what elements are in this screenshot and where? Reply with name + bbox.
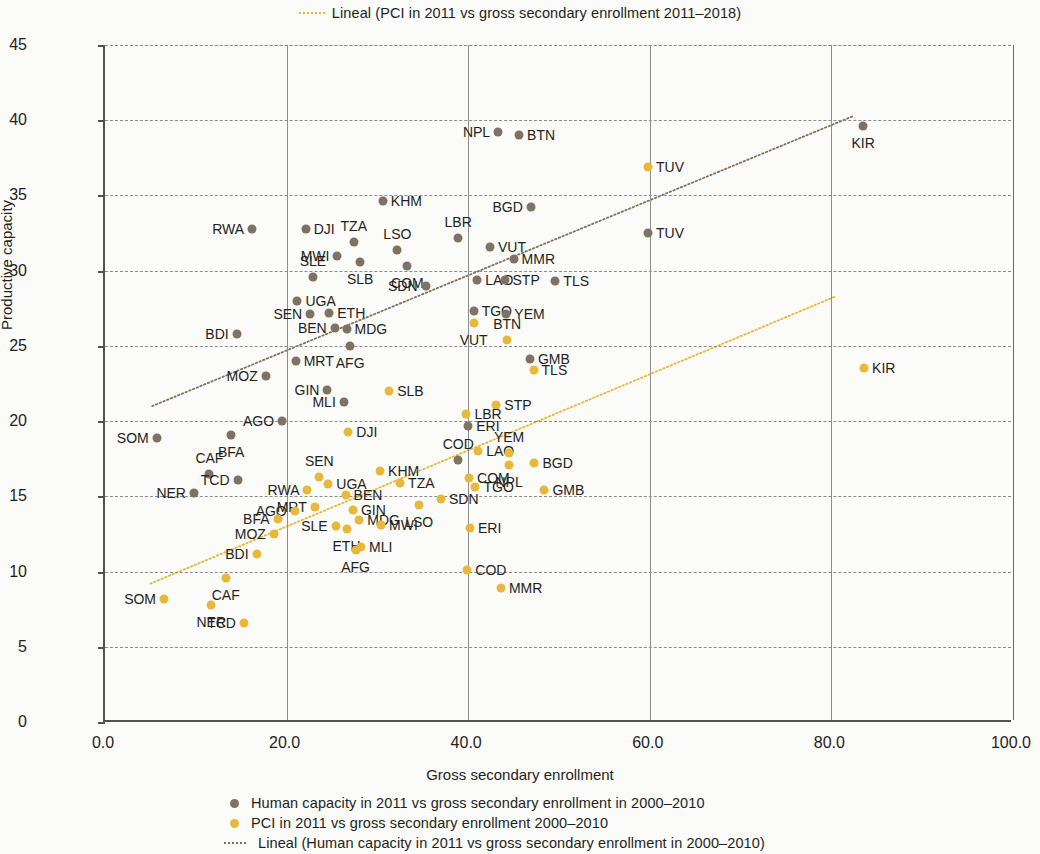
data-point[interactable]	[342, 525, 351, 534]
data-point[interactable]	[261, 371, 270, 380]
bottom-legend: Human capacity in 2011 vs gross secondar…	[228, 793, 928, 853]
y-axis-tick-label: 20	[0, 412, 27, 430]
data-point[interactable]	[351, 546, 360, 555]
data-point[interactable]	[306, 310, 315, 319]
y-axis-tick-mark	[98, 421, 105, 423]
data-point[interactable]	[273, 514, 282, 523]
y-axis-tick-label: 40	[0, 111, 27, 129]
data-point[interactable]	[421, 281, 430, 290]
data-point[interactable]	[308, 272, 317, 281]
data-point[interactable]	[152, 433, 161, 442]
data-point[interactable]	[290, 507, 299, 516]
data-point[interactable]	[239, 618, 248, 627]
data-point[interactable]	[643, 229, 652, 238]
data-point-label: SLB	[397, 383, 423, 399]
data-point[interactable]	[525, 355, 534, 364]
data-point[interactable]	[860, 364, 869, 373]
data-point[interactable]	[496, 584, 505, 593]
data-point[interactable]	[346, 341, 355, 350]
data-point[interactable]	[303, 486, 312, 495]
data-point-label: UGA	[305, 293, 335, 309]
data-point[interactable]	[356, 257, 365, 266]
data-point[interactable]	[515, 131, 524, 140]
data-point[interactable]	[505, 448, 514, 457]
data-point-label: DJI	[356, 424, 377, 440]
data-point[interactable]	[469, 319, 478, 328]
data-point[interactable]	[341, 490, 350, 499]
data-point[interactable]	[333, 251, 342, 260]
data-point-label: NPL	[463, 124, 490, 140]
data-point[interactable]	[330, 323, 339, 332]
data-point[interactable]	[540, 486, 549, 495]
data-point[interactable]	[348, 505, 357, 514]
data-point[interactable]	[503, 335, 512, 344]
data-point[interactable]	[505, 460, 514, 469]
data-point[interactable]	[248, 224, 257, 233]
data-point[interactable]	[331, 522, 340, 531]
data-point[interactable]	[462, 409, 471, 418]
data-point[interactable]	[189, 489, 198, 498]
data-point[interactable]	[465, 474, 474, 483]
data-point[interactable]	[500, 275, 509, 284]
data-point[interactable]	[473, 275, 482, 284]
data-point[interactable]	[466, 523, 475, 532]
data-point[interactable]	[342, 325, 351, 334]
data-point[interactable]	[355, 516, 364, 525]
data-point[interactable]	[269, 529, 278, 538]
data-point[interactable]	[403, 262, 412, 271]
data-point[interactable]	[415, 501, 424, 510]
data-point[interactable]	[232, 329, 241, 338]
data-point[interactable]	[494, 128, 503, 137]
data-point[interactable]	[385, 387, 394, 396]
data-point[interactable]	[291, 356, 300, 365]
data-point[interactable]	[469, 307, 478, 316]
data-point[interactable]	[339, 397, 348, 406]
data-point[interactable]	[315, 472, 324, 481]
data-point[interactable]	[301, 224, 310, 233]
data-point-label: BFA	[243, 511, 269, 527]
data-point[interactable]	[643, 162, 652, 171]
data-point[interactable]	[463, 566, 472, 575]
data-point[interactable]	[396, 478, 405, 487]
data-point[interactable]	[324, 480, 333, 489]
legend-dot-human-icon	[230, 799, 239, 808]
data-point[interactable]	[436, 495, 445, 504]
data-point[interactable]	[509, 254, 518, 263]
data-point[interactable]	[278, 417, 287, 426]
data-point[interactable]	[293, 296, 302, 305]
data-point-label: SDN	[449, 491, 479, 507]
data-point[interactable]	[227, 430, 236, 439]
data-point[interactable]	[344, 427, 353, 436]
data-point[interactable]	[325, 308, 334, 317]
data-point[interactable]	[529, 365, 538, 374]
data-point[interactable]	[454, 233, 463, 242]
y-axis-tick-mark	[98, 45, 105, 47]
data-point[interactable]	[377, 520, 386, 529]
data-point-label: LBR	[445, 214, 472, 230]
data-point[interactable]	[526, 203, 535, 212]
data-point[interactable]	[859, 122, 868, 131]
data-point[interactable]	[474, 447, 483, 456]
data-point[interactable]	[233, 475, 242, 484]
x-axis-tick-label: 0.0	[63, 734, 143, 752]
data-point[interactable]	[310, 502, 319, 511]
data-point[interactable]	[221, 573, 230, 582]
data-point[interactable]	[207, 600, 216, 609]
data-point[interactable]	[376, 466, 385, 475]
legend-item-pci: PCI in 2011 vs gross secondary enrollmen…	[228, 813, 928, 833]
data-point-label: MOZ	[227, 368, 258, 384]
data-point-label: BGD	[493, 199, 523, 215]
data-point[interactable]	[160, 594, 169, 603]
data-point-label: TGO	[483, 479, 513, 495]
data-point[interactable]	[485, 242, 494, 251]
y-axis-tick-label: 10	[0, 563, 27, 581]
data-point[interactable]	[393, 245, 402, 254]
data-point[interactable]	[378, 197, 387, 206]
data-point[interactable]	[464, 421, 473, 430]
y-axis-tick-label: 35	[0, 186, 27, 204]
data-point[interactable]	[530, 459, 539, 468]
data-point[interactable]	[454, 456, 463, 465]
data-point[interactable]	[551, 277, 560, 286]
data-point[interactable]	[349, 238, 358, 247]
data-point[interactable]	[252, 549, 261, 558]
